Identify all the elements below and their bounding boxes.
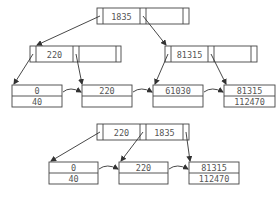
bottom-root-key-2: 1835 [154,128,174,138]
bottom-leaf-2: 220 [119,162,168,184]
top-leaf-4-row-2: 112470 [234,97,265,107]
bottom-leaf-1-row-1: 0 [71,163,76,173]
top-leaf-3-row-1: 61030 [165,86,191,96]
bottom-leaf-1-row-2: 40 [68,174,78,184]
top-leaf-2-row-1: 220 [99,86,114,96]
top-leaf-1-row-2: 40 [32,97,42,107]
top-leaf-2: 220 [82,85,132,107]
bottom-leaf-2-row-1: 220 [136,163,151,173]
bottom-root-key-1: 220 [114,128,129,138]
bottom-leaf-3: 81315 112470 [189,162,239,184]
b-tree-diagram: 1835 220 81315 0 40 220 61030 [0,0,280,197]
top-internal-left-key-1: 220 [47,50,62,60]
top-leaf-4-row-1: 81315 [237,86,263,96]
bottom-leaf-3-row-1: 81315 [201,163,227,173]
top-leaf-1-row-1: 0 [34,86,39,96]
top-root-key-1: 1835 [111,12,131,22]
bottom-leaf-1: 0 40 [49,162,98,184]
bottom-leaf-3-row-2: 112470 [199,174,230,184]
top-internal-right-key-1: 81315 [177,50,203,60]
top-leaf-3: 61030 [153,85,203,107]
top-leaf-1: 0 40 [12,85,62,107]
top-internal-node-left: 220 [30,46,121,62]
top-leaf-4: 81315 112470 [224,85,275,107]
